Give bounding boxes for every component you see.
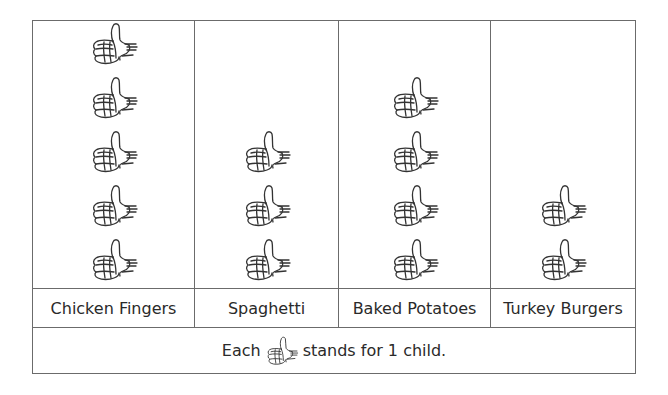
thumbs-up-icon bbox=[538, 184, 588, 228]
thumbs-up-icon bbox=[89, 238, 139, 282]
column-baked-potatoes bbox=[339, 21, 491, 288]
legend-suffix: stands for 1 child. bbox=[303, 341, 447, 360]
category-label: Chicken Fingers bbox=[33, 289, 195, 327]
thumbs-up-icon bbox=[89, 76, 139, 120]
category-label: Baked Potatoes bbox=[339, 289, 491, 327]
thumbs-up-icon bbox=[390, 184, 440, 228]
thumbs-up-icon bbox=[390, 130, 440, 174]
thumbs-up-icon bbox=[242, 184, 292, 228]
category-label: Turkey Burgers bbox=[491, 289, 635, 327]
column-chicken-fingers bbox=[33, 21, 195, 288]
thumbs-up-icon bbox=[242, 238, 292, 282]
legend-prefix: Each bbox=[222, 341, 261, 360]
column-turkey-burgers bbox=[491, 21, 635, 288]
thumbs-up-icon bbox=[242, 130, 292, 174]
thumbs-up-icon bbox=[265, 336, 299, 366]
thumbs-up-icon bbox=[390, 76, 440, 120]
symbol-stack bbox=[33, 12, 194, 282]
column-spaghetti bbox=[195, 21, 339, 288]
thumbs-up-icon bbox=[89, 184, 139, 228]
symbol-columns bbox=[33, 21, 635, 288]
thumbs-up-icon bbox=[89, 130, 139, 174]
thumbs-up-icon bbox=[89, 22, 139, 66]
legend-key: Each stands for 1 child. bbox=[33, 328, 635, 373]
pictograph-chart: Chicken Fingers Spaghetti Baked Potatoes… bbox=[32, 20, 636, 374]
symbol-stack bbox=[195, 120, 338, 282]
category-label: Spaghetti bbox=[195, 289, 339, 327]
category-labels-row: Chicken Fingers Spaghetti Baked Potatoes… bbox=[33, 288, 635, 328]
thumbs-up-icon bbox=[390, 238, 440, 282]
symbol-stack bbox=[491, 174, 635, 282]
symbol-stack bbox=[339, 66, 490, 282]
thumbs-up-icon bbox=[538, 238, 588, 282]
